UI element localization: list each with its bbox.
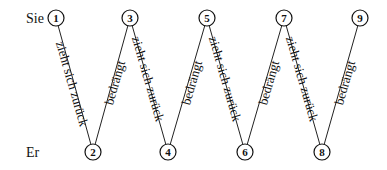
svg-text:2: 2	[90, 146, 96, 158]
svg-text:8: 8	[319, 146, 325, 158]
node-7: 7	[276, 10, 292, 26]
edge-labels: zieht sich zurück bedrängt zieht sich zu…	[53, 34, 358, 128]
node-1: 1	[48, 10, 64, 26]
svg-text:1: 1	[53, 12, 59, 24]
svg-text:4: 4	[165, 146, 171, 158]
edge-label-5-6: zieht sich zurück	[206, 34, 245, 123]
row-label-sie: Sie	[26, 11, 44, 26]
node-4: 4	[160, 144, 176, 160]
svg-text:7: 7	[281, 12, 287, 24]
row-label-er: Er	[26, 145, 40, 160]
edge-label-4-5: bedrängt	[178, 58, 205, 106]
svg-text:5: 5	[204, 12, 210, 24]
node-3: 3	[122, 10, 138, 26]
zigzag-diagram: Sie Er zieht sich zurück bedrängt zieht …	[0, 0, 387, 170]
edge-label-2-3: bedrängt	[101, 58, 128, 106]
node-9: 9	[352, 10, 368, 26]
svg-text:9: 9	[357, 12, 363, 24]
edge-label-6-7: bedrängt	[255, 58, 282, 106]
edge-label-3-4: zieht sich zurück	[129, 34, 168, 123]
node-2: 2	[85, 144, 101, 160]
node-5: 5	[199, 10, 215, 26]
edge-label-8-9: bedrängt	[331, 58, 358, 106]
edge-label-7-8: zieht sich zurück	[283, 34, 322, 123]
nodes: 1 2 3 4 5 6 7 8	[48, 10, 368, 160]
svg-text:6: 6	[242, 146, 248, 158]
node-6: 6	[237, 144, 253, 160]
svg-text:3: 3	[127, 12, 133, 24]
edge-label-1-2: zieht sich zurück	[53, 39, 92, 128]
node-8: 8	[314, 144, 330, 160]
